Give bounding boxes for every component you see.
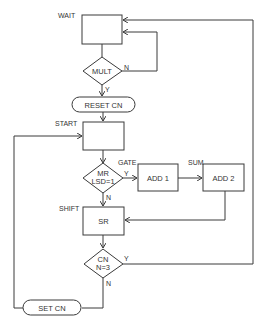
add2-label: ADD 2 [212, 174, 234, 183]
sum-tag: SUM [188, 159, 204, 166]
reset-cn-label: RESET CN [85, 101, 123, 110]
add1-label: ADD 1 [147, 174, 169, 183]
mr-label-line2: LSD=1 [91, 177, 114, 186]
wait-tag: WAIT [58, 12, 76, 19]
reset-cn-node: RESET CN [72, 97, 135, 112]
wait-node: WAIT [58, 12, 122, 44]
start-tag: START [55, 120, 78, 127]
mr-yes-label: Y [124, 170, 129, 177]
cn-no-label: N [106, 280, 111, 287]
sr-node: SR SHIFT [59, 205, 124, 235]
mult-label: MULT [92, 67, 112, 76]
cn-decision: CN N=3 [84, 249, 123, 278]
edge-cn-yes [123, 20, 253, 264]
mult-no-label: N [124, 64, 129, 71]
edge-setcn-start [14, 136, 82, 308]
sr-label: SR [98, 217, 109, 226]
edge-cn-no [82, 278, 103, 308]
edge-add2-sr [125, 191, 225, 220]
add2-node: ADD 2 SUM [188, 159, 244, 191]
cn-label-line2: N=3 [96, 263, 110, 272]
mr-lsd-decision: MR LSD=1 [83, 163, 123, 193]
mult-decision: MULT [83, 57, 122, 85]
cn-yes-label: Y [124, 255, 129, 262]
shift-tag: SHIFT [59, 205, 80, 212]
set-cn-node: SET CN [23, 300, 81, 315]
mult-yes-label: Y [105, 86, 110, 93]
flowchart: WAIT MULT N Y RESET CN START MR LSD=1 Y … [0, 0, 267, 332]
start-node: START [55, 120, 124, 150]
gate-tag: GATE [118, 159, 137, 166]
set-cn-label: SET CN [38, 304, 65, 313]
mr-no-label: N [106, 194, 111, 201]
